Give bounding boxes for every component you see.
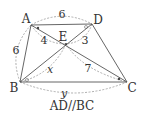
angle-mark-C-dot — [118, 78, 120, 80]
caption: AD//BC — [50, 99, 95, 113]
segment-DC — [92, 24, 127, 82]
angle-mark-A-dot — [37, 27, 39, 29]
angle-mark-D-circle — [85, 26, 88, 29]
arc-BC — [20, 82, 127, 93]
measure-CE: 7 — [85, 63, 92, 74]
label-E: E — [59, 31, 68, 43]
measure-BC: y — [61, 88, 67, 99]
label-D: D — [93, 14, 103, 26]
label-B: B — [10, 82, 19, 94]
measure-AE: 4 — [41, 35, 48, 46]
measure-DE: 3 — [82, 35, 89, 46]
segment-AB — [20, 25, 31, 82]
segment-AD — [31, 24, 92, 25]
label-C: C — [127, 82, 136, 94]
measure-BE: x — [47, 64, 53, 75]
label-A: A — [22, 13, 31, 25]
measure-AD: 6 — [59, 9, 66, 20]
measure-AB: 6 — [13, 45, 20, 56]
